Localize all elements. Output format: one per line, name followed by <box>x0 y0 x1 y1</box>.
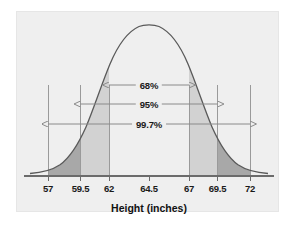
tick-label-67: 67 <box>184 183 194 194</box>
tick-label-72: 72 <box>245 183 255 194</box>
tick-label-69-5: 69.5 <box>209 183 227 194</box>
x-axis-ticks <box>48 176 250 181</box>
chart-plot-area <box>0 0 299 233</box>
shaded-tail-regions <box>48 20 250 176</box>
tick-label-57: 57 <box>43 183 53 194</box>
band-label-997: 99.7% <box>132 119 166 130</box>
band-label-68: 68% <box>136 80 162 91</box>
shaded-inner-regions <box>81 20 218 176</box>
x-axis-title: Height (inches) <box>111 202 187 214</box>
tick-label-64-5: 64.5 <box>140 183 158 194</box>
band-label-95: 95% <box>136 99 162 110</box>
tick-label-62: 62 <box>104 183 114 194</box>
normal-distribution-figure: 68% 95% 99.7% 57 59.5 62 64.5 67 69.5 72… <box>0 0 299 233</box>
tick-label-59-5: 59.5 <box>72 183 90 194</box>
